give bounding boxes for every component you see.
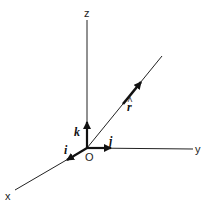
origin-label: O bbox=[85, 151, 94, 163]
r-hat-caret: ^ bbox=[127, 95, 133, 106]
k-label: k bbox=[74, 125, 80, 139]
i-label: i bbox=[64, 143, 68, 157]
coordinate-diagram: z y x O k j i r ^ bbox=[0, 0, 206, 205]
i-vector bbox=[67, 148, 87, 160]
z-axis-label: z bbox=[84, 7, 90, 19]
x-axis-label: x bbox=[5, 190, 11, 202]
y-axis-label: y bbox=[195, 143, 201, 155]
j-label: j bbox=[107, 134, 113, 148]
